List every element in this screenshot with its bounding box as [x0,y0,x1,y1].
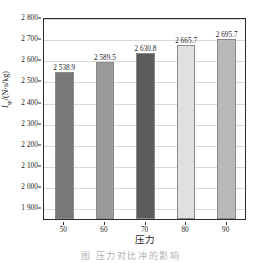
y-tick-label: 2 100 [21,162,38,170]
y-tick-mark [38,102,41,103]
bar-value-label: 2 589.5 [94,54,116,62]
x-axis-title: 压力 [43,232,246,246]
y-tick-mark [38,18,41,19]
y-tick-label: 2 300 [21,120,38,128]
bar [55,72,74,219]
y-tick-mark [38,123,41,124]
y-tick-label: 2 000 [21,183,38,191]
bar-value-label: 2 695.7 [216,31,238,39]
y-tick-mark [38,39,41,40]
bar [96,62,115,219]
y-tick-mark [38,144,41,145]
y-tick-mark [38,166,41,167]
gridline [44,40,245,41]
y-tick-label: 2 200 [21,141,38,149]
x-tick-mark [145,222,146,225]
bar [136,53,155,219]
bar-value-label: 2 630.8 [135,45,157,53]
y-tick-mark [38,187,41,188]
y-tick-mark [38,81,41,82]
y-tick-label: 2 700 [21,35,38,43]
y-tick-label: 1 900 [21,204,38,212]
bar-value-label: 2 665.7 [175,37,197,45]
bar-value-label: 2 538.9 [53,64,75,72]
plot-area: 2 538.92 589.52 630.82 665.72 695.7 [43,18,246,220]
x-tick-mark [185,222,186,225]
bar [217,39,236,219]
bar [177,45,196,219]
y-tick-label: 2 800 [21,14,38,22]
gridline [44,19,245,20]
y-tick-label: 2 400 [21,99,38,107]
figure: Isp/(N·s/kg) 1 9002 0002 1002 2002 3002 … [0,0,261,263]
y-tick-mark [38,60,41,61]
y-tick-label: 2 500 [21,77,38,85]
y-tick-label: 2 600 [21,56,38,64]
y-axis-tick-labels: 1 9002 0002 1002 2002 3002 4002 5002 600… [0,18,41,220]
x-tick-mark [63,222,64,225]
x-tick-mark [226,222,227,225]
figure-caption: 图 压力对比冲的影响 [0,249,261,262]
x-tick-mark [104,222,105,225]
y-tick-mark [38,208,41,209]
